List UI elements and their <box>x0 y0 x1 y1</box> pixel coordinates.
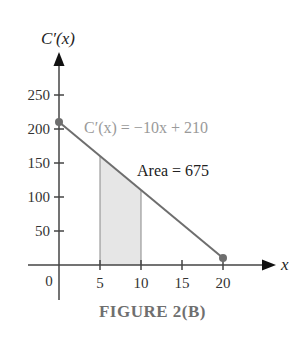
end-point-marker <box>219 254 227 262</box>
x-axis-label: x <box>280 255 289 274</box>
y-tick-label-200: 200 <box>28 121 51 137</box>
y-tick-label-250: 250 <box>28 87 51 103</box>
x-tick-label-5: 5 <box>96 275 104 291</box>
x-tick-label-10: 10 <box>134 275 149 291</box>
y-tick-label-50: 50 <box>35 223 50 239</box>
x-tick-label-15: 15 <box>175 275 190 291</box>
y-axis-label: C′(x) <box>41 29 75 48</box>
area-annotation: Area = 675 <box>137 162 209 179</box>
origin-label: 0 <box>45 273 53 289</box>
x-tick-label-20: 20 <box>216 275 231 291</box>
x-axis-arrow-icon <box>262 260 276 271</box>
figure-caption: FIGURE 2(B) <box>0 302 305 322</box>
start-point-marker <box>55 118 63 126</box>
y-tick-label-150: 150 <box>28 155 51 171</box>
y-axis-arrow-icon <box>54 52 65 66</box>
chart-figure: 50 100 150 200 250 0 5 10 15 20 C′(x) x … <box>0 0 305 337</box>
y-tick-label-100: 100 <box>28 189 51 205</box>
equation-annotation: C′(x) = −10x + 210 <box>84 119 208 137</box>
